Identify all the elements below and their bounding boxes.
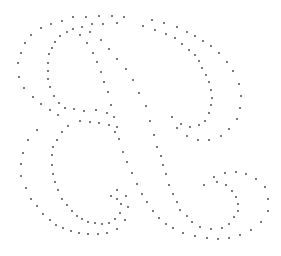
outline-dot	[191, 221, 193, 223]
outline-dot	[172, 193, 174, 195]
outline-dot	[205, 74, 207, 76]
outline-dot	[113, 116, 115, 118]
outline-dot	[107, 91, 109, 93]
outline-dot	[210, 104, 212, 106]
outline-dot	[55, 224, 57, 226]
outline-dot	[163, 22, 165, 24]
outline-dot	[236, 118, 238, 120]
outline-dot	[218, 52, 220, 54]
outline-dot	[51, 164, 53, 166]
outline-dot	[100, 39, 102, 41]
outline-dot	[208, 112, 210, 114]
outline-dot	[226, 61, 228, 63]
outline-dot	[237, 203, 239, 205]
outline-dot	[165, 33, 167, 35]
outline-dot	[51, 47, 53, 49]
outline-dot	[225, 184, 227, 186]
outline-dot	[203, 184, 205, 186]
outline-dot	[116, 58, 118, 60]
outline-dot	[47, 70, 49, 72]
outline-dot	[108, 124, 110, 126]
outline-dot	[114, 131, 116, 133]
outline-dot	[156, 146, 158, 148]
outline-dot	[181, 43, 183, 45]
outline-dot	[267, 198, 269, 200]
outline-dot	[58, 102, 60, 104]
outline-dot	[23, 87, 25, 89]
outline-dot	[122, 151, 124, 153]
outline-dot	[25, 187, 27, 189]
outline-dot	[86, 42, 88, 44]
outline-dot	[52, 173, 54, 175]
outline-dot	[125, 195, 127, 197]
outline-dot	[50, 23, 52, 25]
outline-dot	[194, 54, 196, 56]
outline-dot	[87, 233, 89, 235]
outline-dot	[106, 112, 108, 114]
outline-dot	[235, 196, 237, 198]
outline-dot	[70, 230, 72, 232]
outline-dot	[194, 35, 196, 37]
outline-dot	[145, 105, 147, 107]
background	[0, 0, 281, 256]
outline-dot	[240, 95, 242, 97]
dotted-letter-r-figure	[0, 0, 281, 256]
outline-dot	[32, 96, 34, 98]
outline-dot	[116, 189, 118, 191]
outline-dot	[232, 70, 234, 72]
outline-dot	[22, 152, 24, 154]
outline-dot	[108, 48, 110, 50]
outline-dot	[61, 20, 63, 22]
outline-dot	[224, 172, 226, 174]
outline-dot	[220, 135, 222, 137]
outline-dot	[127, 206, 129, 208]
outline-dot	[198, 60, 200, 62]
outline-dot	[255, 178, 257, 180]
outline-dot	[98, 122, 100, 124]
outline-dot	[20, 163, 22, 165]
outline-dot	[57, 114, 59, 116]
outline-dot	[40, 103, 42, 105]
outline-dot	[73, 108, 75, 110]
outline-dot	[56, 139, 58, 141]
outline-dot	[89, 121, 91, 123]
outline-dot	[197, 139, 199, 141]
outline-dot	[71, 210, 73, 212]
outline-dot	[102, 23, 104, 25]
outline-dot	[108, 222, 110, 224]
outline-dot	[62, 227, 64, 229]
outline-dot	[94, 222, 96, 224]
outline-dot	[92, 52, 94, 54]
outline-dot	[118, 138, 120, 140]
outline-dot	[126, 161, 128, 163]
outline-dot	[103, 81, 105, 83]
outline-dot	[116, 126, 118, 128]
outline-dot	[110, 195, 112, 197]
outline-dot	[260, 221, 262, 223]
outline-dot	[168, 184, 170, 186]
outline-dot	[228, 237, 230, 239]
outline-dot	[54, 41, 56, 43]
outline-dot	[51, 154, 53, 156]
outline-dot	[211, 97, 213, 99]
outline-dot	[250, 229, 252, 231]
outline-dot	[172, 227, 174, 229]
outline-dot	[165, 173, 167, 175]
outline-dot	[158, 217, 160, 219]
outline-dot	[131, 172, 133, 174]
outline-dot	[213, 176, 215, 178]
outline-dot	[174, 37, 176, 39]
outline-dot	[87, 221, 89, 223]
outline-dot	[146, 201, 148, 203]
outline-dot	[235, 171, 237, 173]
outline-dot	[267, 210, 269, 212]
outline-dot	[125, 68, 127, 70]
outline-dot	[149, 120, 151, 122]
outline-dot	[123, 16, 125, 18]
outline-dot	[231, 190, 233, 192]
outline-dot	[221, 227, 223, 229]
outline-dot	[176, 127, 178, 129]
outline-dot	[96, 61, 98, 63]
outline-dot	[98, 15, 100, 17]
outline-dot	[36, 129, 38, 131]
